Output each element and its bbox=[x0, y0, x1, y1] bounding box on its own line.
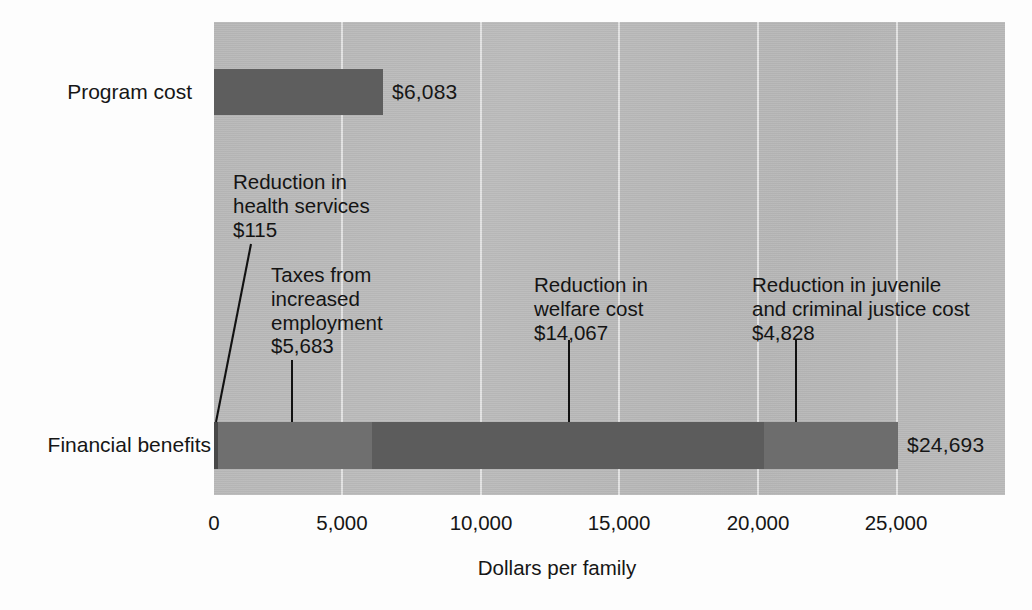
leader-line-welfare-cost bbox=[568, 340, 570, 422]
leader-line-health-services bbox=[205, 240, 265, 430]
annotation-line: employment bbox=[271, 311, 383, 335]
annotation-line: Reduction in juvenile bbox=[752, 273, 970, 297]
xtick-label-0: 0 bbox=[208, 511, 219, 535]
annotation-line: welfare cost bbox=[534, 297, 648, 321]
annotation-value: $5,683 bbox=[271, 334, 383, 358]
annotation-value: $115 bbox=[233, 218, 370, 242]
leader-line-taxes-employment bbox=[291, 360, 293, 422]
annotation-value: $4,828 bbox=[752, 321, 970, 345]
annotation-line: Reduction in bbox=[534, 273, 648, 297]
xtick-label-20000: 20,000 bbox=[727, 511, 790, 535]
bar-program-cost bbox=[214, 69, 383, 115]
annotation-line: health services bbox=[233, 194, 370, 218]
annotation-line: increased bbox=[271, 287, 383, 311]
xtick-label-15000: 15,000 bbox=[588, 511, 651, 535]
x-axis-title: Dollars per family bbox=[478, 556, 636, 580]
segment-juvenile-criminal-justice bbox=[764, 422, 898, 469]
category-label-financial-benefits: Financial benefits bbox=[48, 433, 211, 457]
annotation-juvenile-criminal-justice: Reduction in juvenile and criminal justi… bbox=[752, 273, 970, 344]
annotation-line: Taxes from bbox=[271, 263, 383, 287]
annotation-welfare-cost: Reduction in welfare cost $14,067 bbox=[534, 273, 648, 344]
segment-welfare-cost bbox=[372, 422, 764, 469]
annotation-health-services: Reduction in health services $115 bbox=[233, 170, 370, 241]
chart-figure: $6,083 Program cost $24,693 Financial be… bbox=[0, 0, 1032, 610]
leader-line-juvenile-criminal-justice bbox=[795, 340, 797, 422]
annotation-value: $14,067 bbox=[534, 321, 648, 345]
value-label-financial-benefits: $24,693 bbox=[907, 433, 984, 457]
bar-financial-benefits bbox=[214, 422, 898, 469]
category-label-program-cost: Program cost bbox=[67, 80, 192, 104]
annotation-line: Reduction in bbox=[233, 170, 370, 194]
annotation-taxes-employment: Taxes from increased employment $5,683 bbox=[271, 263, 383, 358]
xtick-label-10000: 10,000 bbox=[450, 511, 513, 535]
value-label-program-cost: $6,083 bbox=[392, 80, 457, 104]
xtick-label-5000: 5,000 bbox=[316, 511, 367, 535]
xtick-label-25000: 25,000 bbox=[865, 511, 928, 535]
annotation-line: and criminal justice cost bbox=[752, 297, 970, 321]
